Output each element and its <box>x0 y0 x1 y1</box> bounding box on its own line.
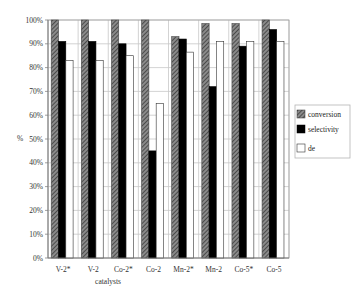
bar-de <box>216 41 223 258</box>
legend-item-conversion: conversion <box>297 110 341 119</box>
y-tick-label: 50% <box>29 135 43 144</box>
bar-selectivity <box>179 39 186 258</box>
bar-selectivity <box>149 151 156 258</box>
legend-swatch-hatched-icon <box>297 110 305 118</box>
bar-de <box>126 56 133 258</box>
bar-selectivity <box>269 30 276 258</box>
bar-de <box>66 60 73 258</box>
legend-swatch-solid-icon <box>297 125 305 133</box>
bar-conversion <box>202 24 209 258</box>
bar-de <box>186 52 193 258</box>
x-tick-label: Mn-2* <box>173 265 194 274</box>
x-tick-label: V-2 <box>88 265 99 274</box>
bar-selectivity <box>89 41 96 258</box>
bar-de <box>247 41 254 258</box>
bar-conversion <box>262 20 269 258</box>
bar-de <box>156 103 163 258</box>
y-axis-title: % <box>17 134 23 143</box>
y-tick-label: 10% <box>29 230 43 239</box>
x-tick-label: Co-2* <box>114 265 133 274</box>
y-tick-label: 100% <box>26 16 44 25</box>
bar-conversion <box>172 37 179 258</box>
y-tick-label: 60% <box>29 111 43 120</box>
bar-conversion <box>142 20 149 258</box>
y-axis: 0%10%20%30%40%50%60%70%80%90%100% <box>26 16 49 263</box>
x-tick-label: Co-2 <box>146 265 161 274</box>
bar-chart: 0%10%20%30%40%50%60%70%80%90%100% V-2*V-… <box>0 0 356 299</box>
legend-label: conversion <box>308 110 341 119</box>
legend-label: de <box>308 144 316 153</box>
legend-swatch-empty-icon <box>297 144 305 152</box>
y-tick-label: 70% <box>29 87 43 96</box>
plot-area <box>48 20 289 258</box>
y-tick-label: 20% <box>29 206 43 215</box>
x-tick-label: Co-5* <box>234 265 253 274</box>
x-tick-label: Mn-2 <box>205 265 222 274</box>
bar-selectivity <box>239 46 246 258</box>
legend-label: selectivity <box>308 125 339 134</box>
bar-de <box>277 41 284 258</box>
y-tick-label: 30% <box>29 182 43 191</box>
y-tick-label: 90% <box>29 39 43 48</box>
bar-selectivity <box>119 44 126 258</box>
bar-conversion <box>232 24 239 258</box>
legend-item-selectivity: selectivity <box>297 125 339 134</box>
y-tick-label: 40% <box>29 158 43 167</box>
x-tick-label: Co-5 <box>266 265 281 274</box>
bar-de <box>96 60 103 258</box>
x-axis-title: catalysts <box>95 277 121 286</box>
y-tick-label: 80% <box>29 63 43 72</box>
bar-conversion <box>81 20 88 258</box>
bar-conversion <box>51 20 58 258</box>
x-tick-label: V-2* <box>56 265 71 274</box>
bar-selectivity <box>209 87 216 258</box>
x-axis: V-2*V-2Co-2*Co-2Mn-2*Mn-2Co-5*Co-5 <box>48 258 289 274</box>
legend: conversion selectivity de <box>295 105 350 158</box>
bar-conversion <box>111 20 118 258</box>
y-tick-label: 0% <box>33 254 43 263</box>
bar-selectivity <box>59 41 66 258</box>
